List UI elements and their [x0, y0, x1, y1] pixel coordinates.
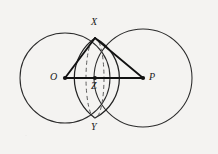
label-o: O — [50, 72, 57, 82]
label-p: P — [149, 72, 155, 82]
label-z: Z — [91, 81, 97, 91]
label-x: X — [91, 17, 97, 27]
point-p-dot — [141, 76, 145, 80]
label-y: Y — [91, 122, 97, 132]
geometry-figure: O P X Y Z — [0, 0, 218, 154]
segment-ox — [65, 38, 95, 78]
point-o-dot — [63, 76, 67, 80]
geometry-canvas — [0, 0, 218, 154]
